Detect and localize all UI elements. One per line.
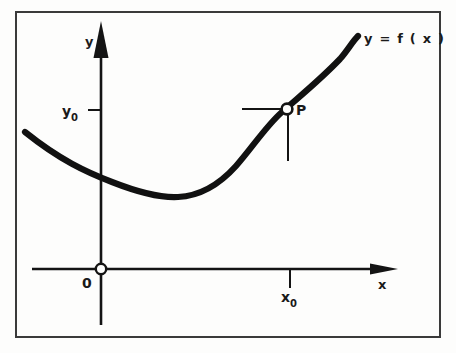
y-axis-label: y — [85, 34, 94, 49]
x-axis-label: x — [378, 277, 387, 292]
curve-equation-label: y = f ( x ) — [364, 31, 445, 46]
y0-label-subscript: 0 — [71, 112, 78, 123]
y-axis-arrowhead-icon — [94, 21, 109, 58]
figure-container: y x 0 y 0 x 0 P y = f ( x ) — [0, 0, 456, 353]
function-graph-svg: y x 0 y 0 x 0 P y = f ( x ) — [0, 0, 456, 353]
origin-marker-icon — [96, 264, 106, 274]
origin-label: 0 — [82, 275, 92, 291]
point-p-label: P — [296, 102, 306, 118]
y0-label: y — [62, 103, 71, 119]
x0-label: x — [281, 289, 290, 305]
x0-label-subscript: 0 — [290, 298, 297, 309]
point-p-marker-icon — [282, 104, 293, 115]
x-axis-arrowhead-icon — [370, 264, 398, 275]
